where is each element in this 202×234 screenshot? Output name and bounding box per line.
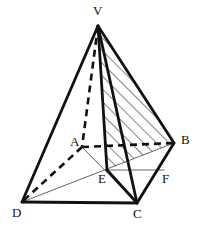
geometry-figure: V A B C D E F [0,0,202,234]
vertex-label-v: V [93,4,102,17]
vertex-label-d: D [12,206,21,219]
line-dc [22,202,137,203]
vertex-label-c: C [133,207,142,220]
hatched-region-veb [98,26,174,170]
vertex-label-b: B [181,133,190,146]
pyramid-diagram-svg [0,0,202,234]
vertex-label-e: E [98,172,106,185]
vertex-label-f: F [162,172,169,185]
line-ad-dashed [22,147,82,202]
vertex-label-a: A [70,135,79,148]
hatch-fill [98,26,174,170]
